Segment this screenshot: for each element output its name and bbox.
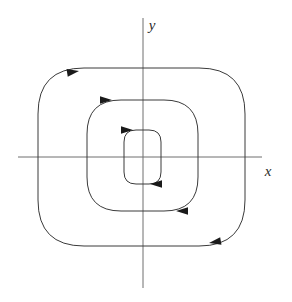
phase-portrait-figure: y x [0, 0, 292, 302]
y-axis-label: y [147, 17, 156, 33]
axes-group [18, 18, 262, 288]
middle-orbit-bottom-arrow [176, 207, 188, 215]
inner-orbit-bottom-arrow [150, 180, 162, 188]
phase-portrait-canvas: y x [0, 0, 292, 302]
x-axis-label: x [264, 163, 272, 179]
axis-labels-group: y x [147, 17, 272, 179]
